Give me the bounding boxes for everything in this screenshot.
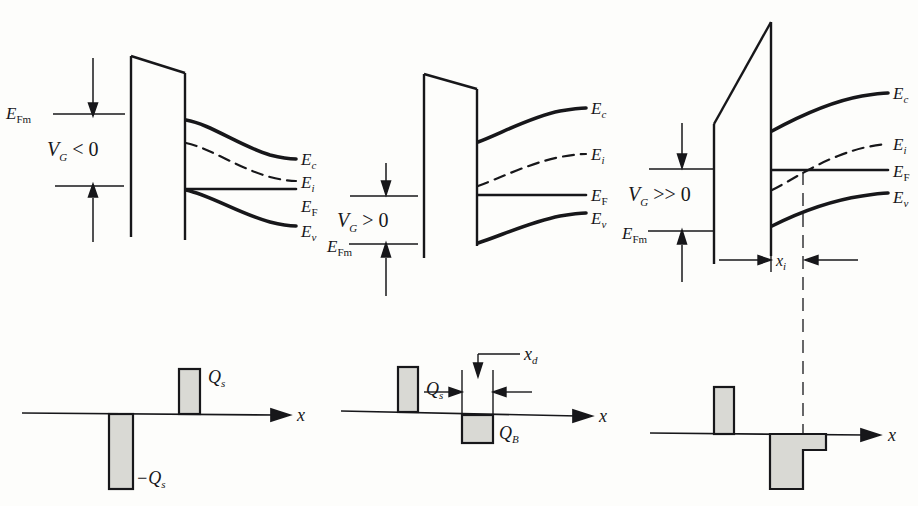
panel-inversion: EFm VG>> 0 Ec Ei EF Ev	[621, 22, 910, 434]
charge-bar-positive-inversion	[714, 387, 734, 434]
charge-label-qs-accumulation: Qs	[208, 367, 225, 389]
bands-accumulation	[186, 120, 296, 226]
band-ei-accumulation	[186, 143, 296, 181]
band-label-ev-inversion: Ev	[892, 188, 908, 209]
band-label-ei-inversion: Ei	[892, 135, 906, 156]
charge-bar-positive-depletion	[398, 367, 418, 412]
band-label-ef-depletion: EF	[590, 186, 608, 207]
charge-bar-positive-accumulation	[179, 369, 200, 414]
band-label-ef-accumulation: EF	[300, 197, 318, 218]
metal-fermi-level-depletion: EFm	[326, 237, 418, 258]
band-label-ec-depletion: Ec	[590, 99, 606, 120]
efm-label-depletion: EFm	[326, 237, 353, 258]
xd-label: xd	[523, 344, 538, 366]
x-axis-label-accumulation: x	[296, 405, 305, 425]
band-label-ef-inversion: EF	[892, 162, 910, 183]
band-ei-inversion	[772, 144, 888, 190]
xi-dimension	[719, 246, 858, 272]
xd-dimension	[424, 354, 532, 414]
bias-label-inversion: VG>> 0	[628, 183, 691, 208]
charge-bar-negative-accumulation	[109, 414, 133, 489]
band-ev-depletion	[478, 213, 586, 243]
band-ec-depletion	[478, 108, 586, 142]
oxide-barrier-depletion	[424, 74, 477, 258]
charge-plot-depletion: x Qs QB xd	[341, 344, 607, 445]
charge-label-qb-depletion: QB	[499, 423, 519, 445]
oxide-barrier-accumulation	[131, 56, 185, 240]
band-label-ei-accumulation: Ei	[300, 173, 314, 194]
metal-fermi-level-accumulation: EFm	[5, 104, 125, 125]
band-ev-inversion	[772, 193, 888, 226]
bias-label-accumulation: VG< 0	[47, 138, 98, 163]
band-ev-accumulation	[186, 190, 296, 226]
x-axis-accumulation	[22, 409, 290, 421]
charge-label-qs-depletion: Qs	[426, 379, 443, 401]
efm-label-accumulation: EFm	[5, 104, 32, 125]
figure-canvas: EFm VG< 0 Ec Ei EF	[0, 0, 918, 506]
panel-accumulation: EFm VG< 0 Ec Ei EF	[5, 56, 318, 243]
oxide-barrier-inversion	[714, 22, 771, 264]
band-ec-accumulation	[186, 120, 296, 159]
band-ec-inversion	[772, 93, 888, 131]
charge-region-negative-inversion	[770, 434, 826, 489]
bands-inversion	[772, 93, 888, 226]
band-label-ev-depletion: Ev	[590, 209, 606, 230]
bias-label-depletion: VG> 0	[337, 209, 388, 234]
band-label-ei-depletion: Ei	[590, 145, 604, 166]
mos-band-diagram-figure: EFm VG< 0 Ec Ei EF	[0, 0, 918, 506]
x-axis-label-depletion: x	[598, 406, 607, 426]
bands-depletion	[478, 108, 586, 243]
metal-fermi-level-inversion: EFm	[621, 224, 713, 245]
band-label-ec-accumulation: Ec	[300, 150, 316, 171]
x-axis-inversion	[650, 429, 880, 441]
xi-label: xi	[775, 252, 786, 272]
charge-plot-accumulation: x Qs −Qs	[22, 367, 305, 490]
band-label-ec-inversion: Ec	[892, 84, 908, 105]
x-axis-label-inversion: x	[887, 425, 896, 445]
band-ei-depletion	[478, 154, 586, 186]
efm-label-inversion: EFm	[621, 224, 648, 245]
band-label-ev-accumulation: Ev	[300, 222, 316, 243]
charge-plot-inversion: x	[650, 387, 896, 489]
panel-depletion: EFm VG> 0 Ec Ei EF Ev	[326, 74, 608, 296]
charge-label-negative-qs-accumulation: −Qs	[136, 468, 165, 490]
charge-bar-qb-depletion	[462, 415, 493, 443]
